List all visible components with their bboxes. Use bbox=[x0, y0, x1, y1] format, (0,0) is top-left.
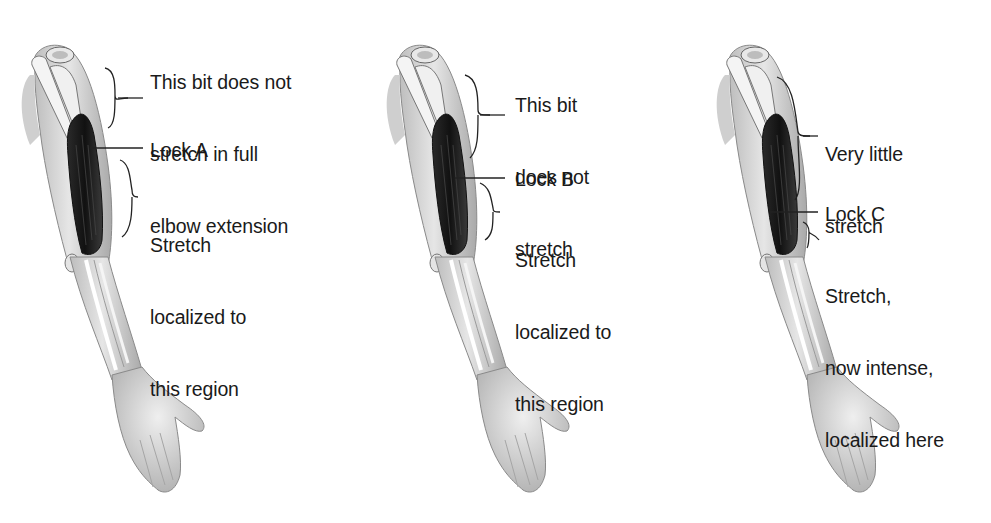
lower-label-line: localized to bbox=[515, 320, 611, 344]
lower-label-line: this region bbox=[150, 377, 246, 401]
upper-bracket bbox=[777, 77, 810, 200]
lower-label: Stretch localized to this region bbox=[150, 185, 246, 449]
upper-label-line: This bit bbox=[515, 93, 589, 117]
upper-label-line: This bit does not bbox=[150, 70, 291, 94]
lower-bracket bbox=[480, 183, 500, 240]
lower-label-line: Stretch bbox=[150, 233, 246, 257]
lock-label: Lock B bbox=[515, 167, 574, 191]
lock-label: Lock A bbox=[150, 138, 208, 162]
lower-label-line: this region bbox=[515, 392, 611, 416]
lower-label-line: Stretch, bbox=[825, 284, 944, 308]
lower-label: Stretch localized to this region bbox=[515, 200, 611, 464]
lower-label-line: localized to bbox=[150, 305, 246, 329]
lower-label-line: Stretch bbox=[515, 248, 611, 272]
lower-label-line: localized here bbox=[825, 428, 944, 452]
lower-bracket bbox=[803, 222, 819, 248]
lock-label: Lock C bbox=[825, 202, 885, 226]
upper-bracket bbox=[465, 75, 490, 158]
upper-label-line: Very little bbox=[825, 142, 903, 166]
lower-bracket bbox=[120, 160, 138, 237]
panel-lock-a: This bit does not stretch in full elbow … bbox=[0, 0, 330, 523]
panel-lock-b: This bit does not stretch Lock B Stretch… bbox=[355, 0, 685, 523]
lower-label: Stretch, now intense, localized here bbox=[825, 236, 944, 500]
panel-lock-c: Very little stretch Lock C Stretch, now … bbox=[685, 0, 991, 523]
lower-label-line: now intense, bbox=[825, 356, 944, 380]
